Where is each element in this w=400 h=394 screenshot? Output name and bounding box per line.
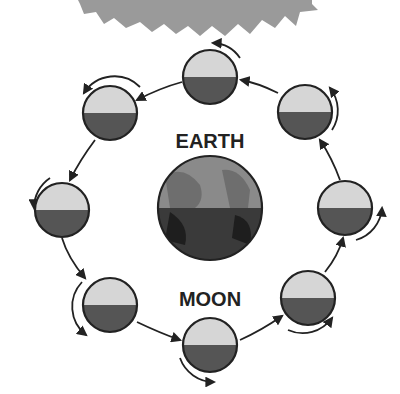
earth-icon [158,156,262,260]
moon-lower-right-icon [281,271,335,325]
moon-upper-right-icon [278,85,332,139]
sun-icon [78,0,318,36]
earth-label: EARTH [176,130,245,152]
moon-upper-left-icon [83,86,137,140]
moon-lower-left-icon [83,278,137,332]
moon-right-icon [318,181,372,235]
moon-bottom-icon [183,318,237,372]
moon-top-icon [183,50,237,104]
moon-left-icon [35,183,89,237]
moon-orbit-diagram: EARTH MOON [0,0,400,394]
moon-label: MOON [179,288,241,310]
